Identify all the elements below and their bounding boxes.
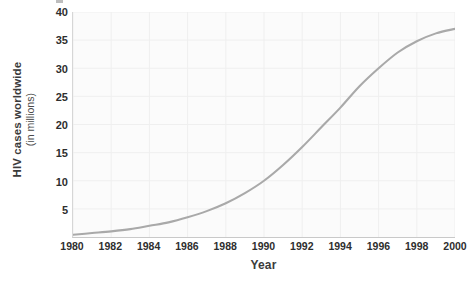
y-tick-label: 25 bbox=[42, 91, 68, 103]
x-tick-label: 1990 bbox=[252, 240, 275, 252]
x-tick-label: 1988 bbox=[214, 240, 237, 252]
y-tick-label: 40 bbox=[42, 6, 68, 18]
y-tick-label: 20 bbox=[42, 119, 68, 131]
x-tick-label: 1982 bbox=[99, 240, 122, 252]
x-tick-label: 1980 bbox=[60, 240, 83, 252]
x-tick-label: 1992 bbox=[290, 240, 313, 252]
y-tick-label: 5 bbox=[42, 204, 68, 216]
y-tick-label: 10 bbox=[42, 176, 68, 188]
y-axis-title-sub: (in millions) bbox=[25, 93, 37, 146]
x-tick-label: 2000 bbox=[443, 240, 466, 252]
x-axis-title: Year bbox=[72, 258, 455, 272]
hiv-cases-line-chart: HIV cases worldwide (in millions) 510152… bbox=[0, 0, 476, 282]
y-tick-label: 35 bbox=[42, 34, 68, 46]
y-axis-title-main: HIV cases worldwide bbox=[11, 62, 24, 178]
y-tick-label: 30 bbox=[42, 63, 68, 75]
x-tick-label: 1998 bbox=[405, 240, 428, 252]
x-axis-tick-labels: 1980198219841986198819901992199419961998… bbox=[72, 240, 455, 258]
x-tick-label: 1986 bbox=[175, 240, 198, 252]
x-tick-label: 1984 bbox=[137, 240, 160, 252]
hiv-cases-curve bbox=[73, 12, 455, 237]
x-tick-label: 1994 bbox=[328, 240, 351, 252]
y-tick-label: 15 bbox=[42, 147, 68, 159]
x-tick-label: 1996 bbox=[367, 240, 390, 252]
plot-area bbox=[72, 12, 455, 238]
y-axis-title: HIV cases worldwide (in millions) bbox=[0, 0, 48, 240]
